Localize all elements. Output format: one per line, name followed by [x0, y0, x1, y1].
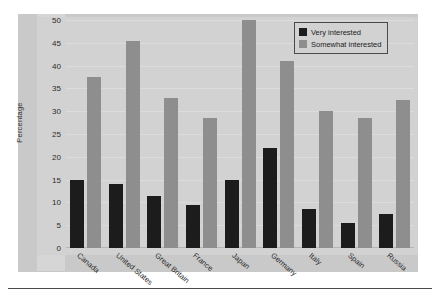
bar-group: [143, 20, 182, 248]
bar: [396, 100, 410, 248]
legend-swatch-very-interested-icon: [299, 28, 307, 36]
bar: [225, 180, 239, 248]
y-axis-title: Percentage: [15, 68, 24, 178]
y-axis-tick-10: 10: [52, 198, 61, 207]
y-axis-tick-35: 35: [52, 84, 61, 93]
bar: [263, 148, 277, 248]
bar: [319, 111, 333, 248]
footer-rule: [8, 288, 432, 289]
x-label-cell: Italy: [298, 249, 337, 299]
y-axis-tick-30: 30: [52, 107, 61, 116]
y-axis-tick-45: 45: [52, 38, 61, 47]
bar: [147, 196, 161, 248]
bar: [280, 61, 294, 248]
bar: [109, 184, 123, 248]
x-label-cell: Great Britain: [143, 249, 182, 299]
bar: [379, 214, 393, 248]
plot-area: [66, 20, 414, 248]
x-label-cell: Canada: [66, 249, 105, 299]
legend-label-somewhat-interested: Somewhat interested: [311, 40, 381, 49]
x-axis-label: France: [192, 251, 216, 273]
y-axis-tick-15: 15: [52, 175, 61, 184]
bar-chart-figure: Percentage 50454035302520151050 CanadaUn…: [0, 0, 439, 303]
y-axis-tick-20: 20: [52, 152, 61, 161]
bar-group: [105, 20, 144, 248]
bar-group: [259, 20, 298, 248]
y-axis-tick-labels: 50454035302520151050: [37, 20, 63, 248]
bar: [164, 98, 178, 248]
y-axis-tick-5: 5: [57, 221, 61, 230]
x-axis-category-labels: CanadaUnited StatesGreat BritainFranceJa…: [66, 249, 414, 299]
y-axis-tick-40: 40: [52, 61, 61, 70]
bar: [358, 118, 372, 248]
x-label-cell: Russia: [375, 249, 414, 299]
y-axis-tick-0: 0: [57, 244, 61, 253]
x-axis-label: Italy: [308, 251, 324, 267]
bar: [302, 209, 316, 248]
bar-group: [66, 20, 105, 248]
x-axis-label: Germany: [269, 251, 298, 278]
bar-group: [375, 20, 414, 248]
bar: [203, 118, 217, 248]
bar-group: [298, 20, 337, 248]
legend-swatch-somewhat-interested-icon: [299, 40, 307, 48]
bar-group: [337, 20, 376, 248]
bar: [126, 41, 140, 248]
x-label-cell: Germany: [259, 249, 298, 299]
bar-group: [182, 20, 221, 248]
bar: [341, 223, 355, 248]
bar: [186, 205, 200, 248]
x-label-cell: United States: [105, 249, 144, 299]
x-axis-label: Spain: [346, 251, 366, 270]
x-axis-label: Canada: [76, 251, 102, 275]
x-axis-label: Russia: [385, 251, 408, 273]
y-axis-tick-25: 25: [52, 130, 61, 139]
x-label-cell: Spain: [337, 249, 376, 299]
bar: [242, 20, 256, 248]
legend-entry-very-interested: Very interested: [299, 26, 381, 38]
x-axis-label: Japan: [230, 251, 251, 271]
bar: [87, 77, 101, 248]
legend-label-very-interested: Very interested: [311, 28, 361, 37]
y-axis-tick-50: 50: [52, 16, 61, 25]
bar-groups: [66, 20, 414, 248]
x-label-cell: Japan: [221, 249, 260, 299]
bar: [70, 180, 84, 248]
x-label-cell: France: [182, 249, 221, 299]
bar-group: [221, 20, 260, 248]
chart-legend: Very interested Somewhat interested: [294, 22, 388, 54]
legend-entry-somewhat-interested: Somewhat interested: [299, 38, 381, 50]
